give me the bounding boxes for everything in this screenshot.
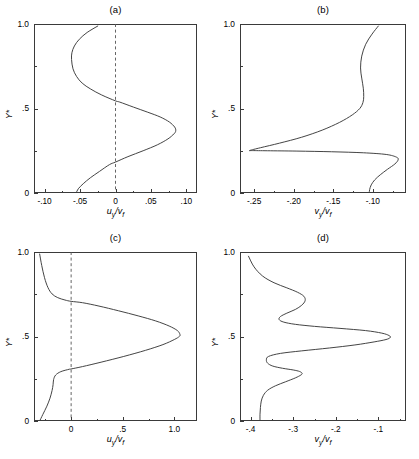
x-tick-d-0 [251,417,252,421]
panel-title-d: (d) [240,232,406,243]
y-tick-label-d-2: 1.0 [208,247,235,257]
y-tick-d-2 [240,252,244,253]
x-minor-tick-d-0 [272,419,273,422]
y-axis-title-text-d: Y* [210,338,220,347]
x-minor-tick-d-1 [315,419,316,422]
plot-canvas-d [240,252,406,421]
x-tick-label-d-0: -.4 [233,424,269,434]
y-minor-tick-d-1 [240,294,243,295]
y-axis-title-d: Y* [210,338,220,347]
x-tick-label-d-3: -.1 [360,424,396,434]
x-axis-title-d: vy/vf [240,434,406,446]
x-tick-d-2 [336,417,337,421]
y-tick-d-1 [240,337,244,338]
y-tick-d-0 [240,421,244,422]
x-tick-label-d-1: -.3 [275,424,311,434]
four-panel-velocity-profile-figure: (a)-.10-.050.05.100.51.0Y*uy/vf(b)-.25-.… [0,0,419,459]
y-minor-tick-d-0 [240,379,243,380]
x-tick-d-1 [293,417,294,421]
y-tick-label-d-0: 0 [208,416,235,426]
x-minor-tick-d-4 [400,419,401,422]
data-curve-d-0 [249,256,391,421]
x-axis-title-denominator-d: /v [323,434,330,444]
x-tick-d-3 [378,417,379,421]
x-tick-label-d-2: -.2 [318,424,354,434]
x-minor-tick-d-2 [357,419,358,422]
x-axis-title-denominator-sub-d: f [330,439,332,446]
panel-d: (d)-.4-.3-.2-.10.51.0Y*vy/vf [0,0,419,459]
